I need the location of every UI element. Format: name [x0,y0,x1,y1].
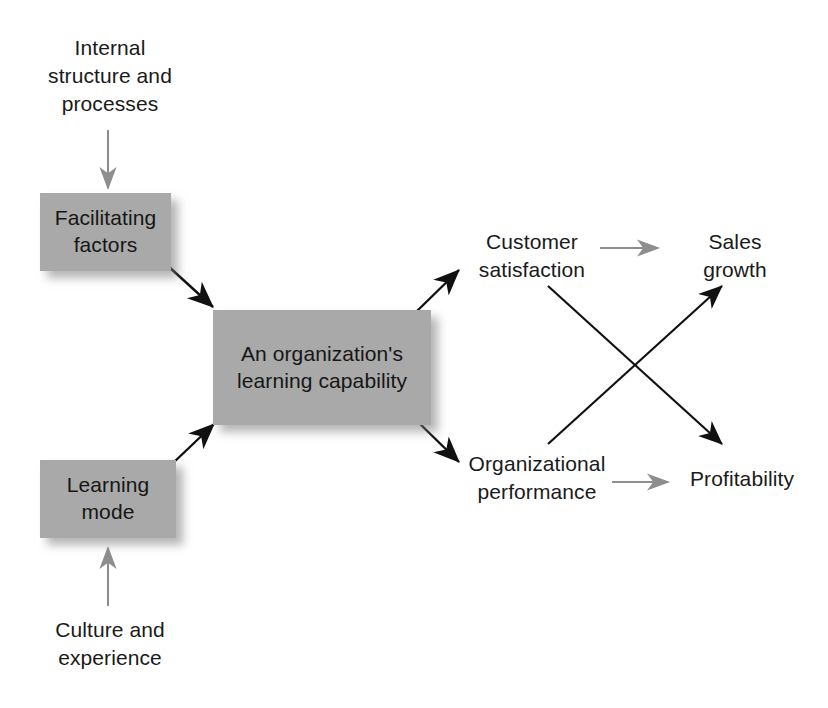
label-sales-growth: Sales growth [665,228,805,284]
box-learning-mode[interactable]: Learning mode [40,460,176,538]
box-facilitating-factors-label: Facilitating factors [40,205,171,259]
connector-facilitating-factors-to-learning-capability [168,266,213,307]
box-learning-capability[interactable]: An organization's learning capability [213,310,431,425]
label-customer-satisfaction: Customer satisfaction [452,228,612,284]
label-organizational-performance: Organizational performance [452,450,622,506]
label-profitability: Profitability [672,465,812,493]
connector-learning-mode-to-learning-capability [172,424,214,464]
label-culture-and-experience: Culture and experience [20,616,200,672]
box-facilitating-factors[interactable]: Facilitating factors [40,193,171,271]
diagram-canvas: Facilitating factors An organization's l… [0,0,828,708]
label-internal-structure-and-processes: Internal structure and processes [20,34,200,118]
box-learning-capability-label: An organization's learning capability [213,341,431,395]
box-learning-mode-label: Learning mode [40,472,176,526]
